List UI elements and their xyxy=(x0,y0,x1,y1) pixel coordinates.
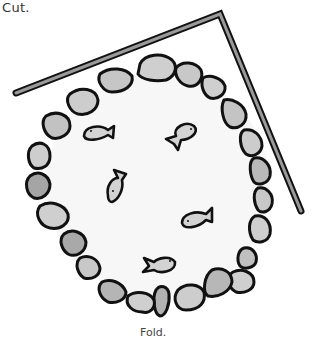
caption-fold: Fold. xyxy=(140,326,166,339)
fish-5 xyxy=(143,258,175,272)
